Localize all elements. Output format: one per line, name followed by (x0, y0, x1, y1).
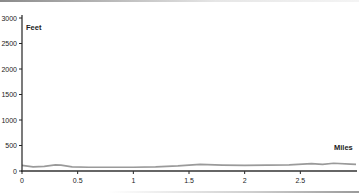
y-axis-title: Feet (26, 23, 42, 32)
y-tick-label: 1500 (1, 91, 17, 98)
y-tick-label: 1000 (1, 117, 17, 124)
x-tick-label: 1 (131, 177, 135, 184)
x-tick-label: 1.5 (184, 177, 194, 184)
x-tick-label: 2 (243, 177, 247, 184)
y-tick-label: 500 (5, 142, 17, 149)
y-tick-label: 3000 (1, 15, 17, 22)
elevation-chart: 050010001500200025003000 00.511.522.5 Fe… (0, 0, 359, 193)
x-axis-ticks: 00.511.522.5 (20, 171, 305, 184)
bottom-divider (0, 191, 359, 193)
y-tick-label: 0 (13, 168, 17, 175)
x-tick-label: 0 (20, 177, 24, 184)
y-tick-label: 2000 (1, 66, 17, 73)
elevation-line (22, 163, 356, 167)
y-tick-label: 2500 (1, 40, 17, 47)
x-tick-label: 2.5 (295, 177, 305, 184)
x-axis-title: Miles (334, 143, 353, 152)
x-tick-label: 0.5 (73, 177, 83, 184)
y-axis-ticks: 050010001500200025003000 (1, 15, 22, 175)
